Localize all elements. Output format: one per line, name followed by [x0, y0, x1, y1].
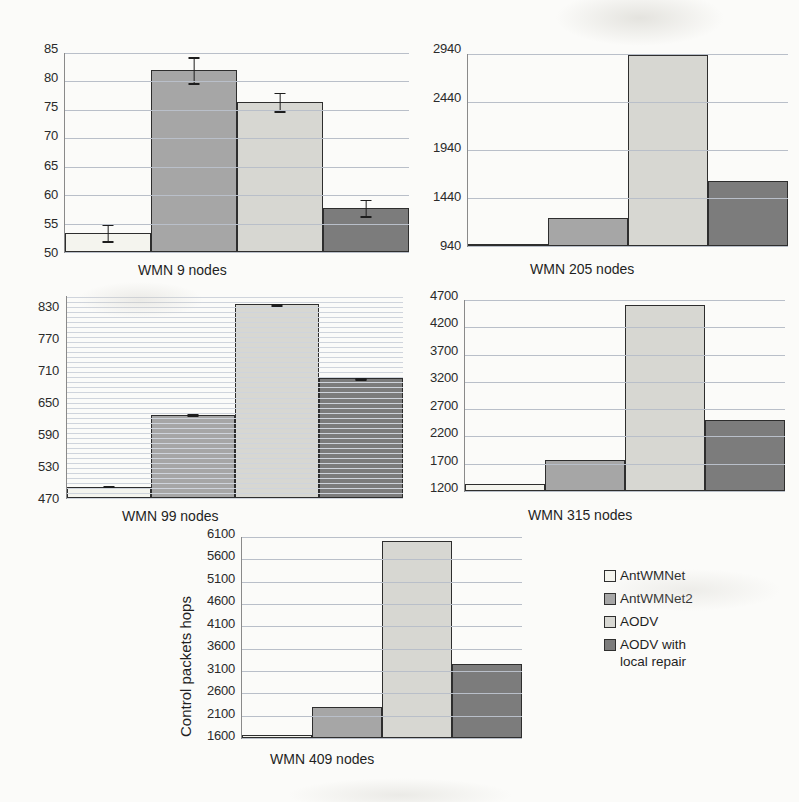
bar-slot: [465, 300, 545, 491]
plot-area-wmn-99-nodes: [66, 296, 403, 499]
gridline: [242, 738, 522, 739]
bar-aodv[interactable]: [382, 541, 452, 738]
bar-aodv-with-local-repair[interactable]: [452, 664, 522, 738]
y-tick-label: 50: [44, 246, 58, 259]
legend-item[interactable]: AntWMNet: [604, 568, 779, 585]
bar-antwmnet2[interactable]: [312, 707, 382, 738]
y-tick-label: 4100: [207, 616, 235, 629]
error-bar-cap-bottom: [275, 111, 286, 113]
panel-wmn-409-nodes: Control packets hops 6100560051004600410…: [165, 533, 585, 783]
bars-wmn-315-nodes: [465, 300, 785, 491]
legend: AntWMNetAntWMNet2AODVAODV with local rep…: [604, 568, 779, 676]
y-tick-label: 2100: [207, 706, 235, 719]
gridline: [465, 464, 785, 465]
y-tick-label: 4600: [207, 594, 235, 607]
y-tick-label: 710: [38, 364, 59, 377]
gridline: [65, 81, 409, 82]
bar-slot: [323, 53, 409, 252]
y-tick-label: 1700: [430, 453, 458, 466]
error-bar-cap-top: [361, 200, 372, 202]
error-bar-cap-top: [275, 93, 286, 95]
gridline: [242, 626, 522, 627]
error-bar-cap-top: [103, 225, 114, 227]
gridline-minor: [67, 403, 403, 404]
legend-item[interactable]: AODV: [604, 614, 779, 631]
gridline-minor: [67, 357, 403, 358]
gridline-minor: [67, 317, 403, 318]
gridline: [242, 559, 522, 560]
bar-antwmnet2[interactable]: [151, 70, 237, 252]
gridline: [468, 150, 788, 151]
panel-caption-wmn-99-nodes: WMN 99 nodes: [122, 508, 218, 524]
bar-aodv-with-local-repair[interactable]: [708, 181, 788, 246]
gridline-minor: [67, 438, 403, 439]
gridline-minor: [67, 418, 403, 419]
bar-antwmnet2[interactable]: [548, 218, 628, 246]
y-tick-label: 85: [44, 42, 58, 55]
y-axis-wmn-99-nodes: 830770710650590530470: [22, 292, 59, 484]
y-tick-label: 75: [44, 100, 58, 113]
gridline-minor: [67, 498, 403, 499]
legend-item[interactable]: AntWMNet2: [604, 591, 779, 608]
gridline: [65, 224, 409, 225]
bar-slot: [312, 537, 382, 738]
bar-aodv-with-local-repair[interactable]: [323, 208, 409, 252]
gridline-minor: [67, 312, 403, 313]
gridline: [65, 110, 409, 111]
gridline: [242, 716, 522, 717]
panel-caption-wmn-9-nodes: WMN 9 nodes: [138, 262, 227, 278]
y-tick-label: 1200: [430, 481, 458, 494]
error-bar-cap-bottom: [361, 216, 372, 218]
y-tick-label: 590: [38, 428, 59, 441]
y-axis-wmn-409-nodes: 6100560051004600410036003100260021001600: [189, 533, 235, 735]
gridline-minor: [67, 382, 403, 383]
bar-slot: [382, 537, 452, 738]
panel-caption-wmn-409-nodes: WMN 409 nodes: [270, 751, 374, 767]
y-tick-label: 3100: [207, 661, 235, 674]
gridline-minor: [67, 337, 403, 338]
gridline: [465, 491, 785, 492]
gridline: [465, 300, 785, 301]
y-tick-label: 470: [38, 492, 59, 505]
y-tick-label: 650: [38, 396, 59, 409]
plot-area-wmn-409-nodes: [241, 537, 522, 739]
bar-aodv-with-local-repair[interactable]: [705, 420, 785, 491]
bar-slot: [705, 300, 785, 491]
y-axis-wmn-205-nodes: 2940244019401440940: [415, 48, 461, 245]
gridline-minor: [67, 428, 403, 429]
y-tick-label: 2200: [430, 426, 458, 439]
y-tick-label: 770: [38, 332, 59, 345]
plot-area-wmn-315-nodes: [464, 300, 785, 492]
y-tick-label: 940: [440, 239, 461, 252]
gridline: [468, 246, 788, 247]
legend-swatch-icon: [604, 593, 616, 605]
gridline: [465, 409, 785, 410]
gridline-minor: [67, 387, 403, 388]
bar-antwmnet[interactable]: [65, 233, 151, 252]
gridline-minor: [67, 307, 403, 308]
gridline-minor: [67, 463, 403, 464]
gridline-minor: [67, 347, 403, 348]
gridline-minor: [67, 408, 403, 409]
gridline: [468, 54, 788, 55]
gridline: [65, 167, 409, 168]
bar-aodv[interactable]: [237, 102, 323, 252]
y-tick-label: 2940: [433, 42, 461, 55]
gridline: [242, 671, 522, 672]
gridline: [65, 53, 409, 54]
gridline-minor: [67, 327, 403, 328]
gridline-minor: [67, 453, 403, 454]
y-tick-label: 2600: [207, 684, 235, 697]
legend-swatch-icon: [604, 570, 616, 582]
y-tick-label: 4200: [430, 316, 458, 329]
error-bar-stem: [365, 200, 367, 218]
y-tick-label: 2440: [433, 91, 461, 104]
gridline-minor: [67, 322, 403, 323]
legend-swatch-icon: [604, 639, 616, 651]
gridline-minor: [67, 392, 403, 393]
gridline: [242, 604, 522, 605]
legend-item[interactable]: AODV with local repair: [604, 637, 779, 671]
bar-slot: [65, 53, 151, 252]
gridline: [465, 436, 785, 437]
y-tick-label: 830: [38, 300, 59, 313]
